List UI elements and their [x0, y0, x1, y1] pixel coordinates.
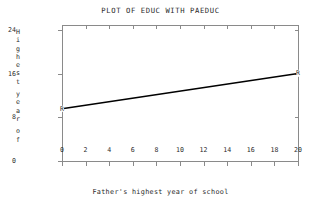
x-tick-label: 4	[107, 146, 111, 154]
x-tick-label: 10	[176, 146, 184, 154]
x-tick-mark	[86, 162, 87, 166]
x-tick-label: 16	[247, 146, 255, 154]
y-axis-title-char: e	[12, 98, 24, 106]
x-tick-label: 8	[154, 146, 158, 154]
y-tick-label: 8	[12, 113, 16, 121]
y-axis-title-char: f	[12, 136, 24, 144]
x-tick-mark	[62, 162, 63, 166]
y-axis-title: Highestyearof	[12, 28, 24, 144]
x-tick-label: 20	[294, 146, 302, 154]
regression-line	[62, 25, 299, 162]
chart-title: PLOT OF EDUC WITH PAEDUC	[0, 6, 321, 15]
data-point-label: R	[60, 106, 64, 112]
y-tick-label: 24	[8, 26, 16, 34]
plot-area: RR	[62, 25, 299, 162]
x-tick-mark	[133, 162, 134, 166]
y-tick-label: 16	[8, 70, 16, 78]
x-tick-mark	[156, 162, 157, 166]
x-tick-label: 14	[223, 146, 231, 154]
x-tick-label: 6	[131, 146, 135, 154]
x-tick-mark	[251, 162, 252, 166]
y-axis-title-char: g	[12, 45, 24, 53]
y-axis-title-char: o	[12, 127, 24, 135]
y-axis-title-char: y	[12, 90, 24, 98]
x-tick-mark	[298, 162, 299, 166]
x-tick-label: 0	[60, 146, 64, 154]
data-point-label: R	[296, 70, 300, 76]
x-tick-mark	[204, 162, 205, 166]
x-tick-label: 12	[200, 146, 208, 154]
x-tick-label: 18	[270, 146, 278, 154]
y-axis-title-char: t	[12, 78, 24, 86]
x-tick-mark	[109, 162, 110, 166]
x-tick-mark	[227, 162, 228, 166]
x-tick-mark	[274, 162, 275, 166]
y-axis-title-char: h	[12, 53, 24, 61]
x-tick-mark	[180, 162, 181, 166]
x-axis-title: Father's highest year of school	[0, 188, 321, 196]
y-axis-title-char: i	[12, 36, 24, 44]
y-axis-title-char: e	[12, 61, 24, 69]
y-tick-label: 0	[12, 157, 16, 165]
x-tick-label: 2	[84, 146, 88, 154]
chart-figure: PLOT OF EDUC WITH PAEDUC Highestyearof R…	[0, 0, 321, 206]
